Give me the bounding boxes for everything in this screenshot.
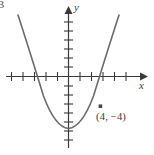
y-axis-arrow-icon bbox=[65, 6, 73, 14]
y-axis-label: y bbox=[74, 2, 79, 13]
point-coordinate-label: (4, −4) bbox=[96, 112, 126, 123]
panel-letter: B bbox=[0, 0, 4, 10]
graph-figure: B x y (4, −4) bbox=[0, 0, 154, 155]
data-point-marker bbox=[99, 104, 103, 108]
x-axis-label: x bbox=[139, 80, 144, 91]
x-axis bbox=[6, 73, 148, 81]
coordinate-plane-svg bbox=[0, 0, 154, 155]
